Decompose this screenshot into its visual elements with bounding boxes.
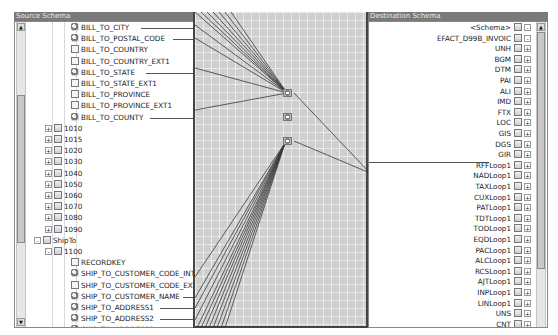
- destination-tree-item[interactable]: TODLoop1+: [474, 223, 533, 234]
- expand-plus-icon[interactable]: +: [524, 141, 531, 148]
- destination-tree-item[interactable]: RCSLoop1+: [475, 266, 533, 277]
- source-tree-item[interactable]: SHIP_TO_CUSTOMER_CODE_INT: [71, 268, 194, 279]
- source-tree-item[interactable]: +1090: [45, 224, 82, 235]
- expand-plus-icon[interactable]: +: [524, 66, 531, 73]
- destination-schema-tree[interactable]: ▲ <Schema>-EFACT_D99B_INVOIC-UNH+BGM+DTM…: [368, 21, 548, 328]
- expand-plus-icon[interactable]: +: [524, 278, 531, 285]
- expand-plus-icon[interactable]: +: [524, 183, 531, 190]
- expand-plus-icon[interactable]: +: [45, 125, 52, 132]
- destination-tree-item[interactable]: EQDLoop1+: [473, 234, 533, 245]
- destination-tree-item[interactable]: IMD+: [497, 96, 533, 107]
- collapse-minus-icon[interactable]: -: [45, 248, 52, 255]
- expand-plus-icon[interactable]: +: [45, 214, 52, 221]
- source-tree-item[interactable]: -ShipTo: [34, 235, 76, 246]
- destination-tree-item[interactable]: PATLoop1+: [477, 202, 533, 213]
- expand-plus-icon[interactable]: +: [524, 310, 531, 317]
- destination-tree-item[interactable]: CUXLoop1+: [474, 192, 533, 203]
- collapse-minus-icon[interactable]: -: [34, 237, 41, 244]
- expand-plus-icon[interactable]: +: [524, 151, 531, 158]
- expand-plus-icon[interactable]: +: [524, 204, 531, 211]
- expand-plus-icon[interactable]: +: [45, 203, 52, 210]
- expand-plus-icon[interactable]: +: [45, 147, 52, 154]
- expand-plus-icon[interactable]: +: [524, 194, 531, 201]
- source-tree-item[interactable]: BILL_TO_PROVINCE: [71, 89, 150, 100]
- source-tree-item[interactable]: BILL_TO_STATE_EXT1: [71, 78, 157, 89]
- destination-tree-item[interactable]: TDTLoop1+: [475, 213, 533, 224]
- expand-plus-icon[interactable]: +: [45, 136, 52, 143]
- source-tree-item[interactable]: +1010: [45, 123, 82, 134]
- source-tree-item[interactable]: SHIP_TO_CUSTOMER_NAME: [71, 291, 180, 302]
- destination-tree-item[interactable]: UNH+: [495, 43, 533, 54]
- destination-tree-item[interactable]: UNS+: [496, 308, 533, 319]
- source-schema-tree[interactable]: ▲ ▼ BILL_TO_CITYBILL_TO_POSTAL_CODEBILL_…: [14, 21, 194, 328]
- expand-plus-icon[interactable]: +: [524, 215, 531, 222]
- source-tree-item[interactable]: SHIP_TO_CUSTOMER_CODE_EXT: [71, 280, 194, 291]
- expand-plus-icon[interactable]: +: [524, 289, 531, 296]
- destination-tree-item[interactable]: LINLoop1+: [478, 298, 533, 309]
- expand-plus-icon[interactable]: +: [524, 109, 531, 116]
- destination-tree-item[interactable]: <Schema>-: [470, 22, 533, 33]
- functoid-node-icon[interactable]: [283, 113, 292, 121]
- destination-tree-item[interactable]: DTM+: [495, 64, 533, 75]
- source-tree-item[interactable]: +1040: [45, 168, 82, 179]
- destination-tree-item[interactable]: EFACT_D99B_INVOIC-: [437, 33, 533, 44]
- source-tree-item[interactable]: SHIP_TO_ADDRESS1: [71, 302, 154, 313]
- source-tree-item[interactable]: +1080: [45, 212, 82, 223]
- source-tree-item[interactable]: RECORDKEY: [71, 257, 125, 268]
- source-tree-item[interactable]: +1060: [45, 190, 82, 201]
- expand-plus-icon[interactable]: +: [524, 257, 531, 264]
- source-vertical-scrollbar[interactable]: ▲ ▼: [16, 22, 26, 327]
- scroll-up-arrow-icon[interactable]: ▲: [17, 23, 25, 31]
- expand-plus-icon[interactable]: +: [524, 77, 531, 84]
- scroll-down-arrow-icon[interactable]: ▼: [17, 318, 25, 326]
- destination-tree-item[interactable]: FTX+: [498, 107, 533, 118]
- functoid-node-icon[interactable]: [283, 137, 292, 145]
- scrollbar-thumb[interactable]: [537, 32, 545, 269]
- expand-plus-icon[interactable]: +: [524, 162, 531, 169]
- destination-tree-item[interactable]: DGS+: [495, 139, 533, 150]
- expand-plus-icon[interactable]: +: [524, 321, 531, 328]
- destination-tree-item[interactable]: INPLoop1+: [477, 287, 533, 298]
- destination-tree-item[interactable]: PACLoop1+: [476, 245, 534, 256]
- expand-plus-icon[interactable]: +: [524, 98, 531, 105]
- expand-plus-icon[interactable]: +: [524, 172, 531, 179]
- destination-tree-item[interactable]: GIR+: [498, 149, 533, 160]
- expand-plus-icon[interactable]: +: [524, 130, 531, 137]
- expand-plus-icon[interactable]: +: [45, 181, 52, 188]
- source-tree-item[interactable]: +1020: [45, 145, 82, 156]
- expand-plus-icon[interactable]: +: [45, 192, 52, 199]
- destination-tree-item[interactable]: CNT+: [496, 319, 533, 328]
- source-tree-item[interactable]: BILL_TO_COUNTRY: [71, 44, 148, 55]
- collapse-minus-icon[interactable]: -: [524, 35, 531, 42]
- source-tree-item[interactable]: +1050: [45, 179, 82, 190]
- source-tree-item[interactable]: BILL_TO_POSTAL_CODE: [71, 33, 165, 44]
- expand-plus-icon[interactable]: +: [524, 225, 531, 232]
- source-tree-item[interactable]: -1100: [45, 246, 82, 257]
- expand-plus-icon[interactable]: +: [524, 236, 531, 243]
- source-tree-item[interactable]: BILL_TO_STATE: [71, 67, 135, 78]
- source-tree-item[interactable]: BILL_TO_COUNTY: [71, 112, 143, 123]
- expand-plus-icon[interactable]: +: [524, 300, 531, 307]
- scroll-up-arrow-icon[interactable]: ▲: [537, 23, 545, 31]
- expand-plus-icon[interactable]: +: [524, 247, 531, 254]
- destination-tree-item[interactable]: ALI+: [500, 86, 533, 97]
- destination-tree-item[interactable]: TAXLoop1+: [476, 181, 533, 192]
- expand-plus-icon[interactable]: +: [45, 170, 52, 177]
- source-tree-item[interactable]: SHIP_TO_ADDRESS2: [71, 313, 154, 324]
- destination-tree-item[interactable]: AJTLoop1+: [478, 276, 533, 287]
- source-tree-item[interactable]: BILL_TO_COUNTRY_EXT1: [71, 56, 170, 67]
- source-tree-item[interactable]: +1015: [45, 134, 82, 145]
- destination-tree-item[interactable]: ALCLoop1+: [475, 255, 533, 266]
- source-tree-item[interactable]: SHIP_TO_ADDRESS3: [71, 324, 154, 328]
- source-tree-item[interactable]: BILL_TO_PROVINCE_EXT1: [71, 100, 172, 111]
- source-tree-item[interactable]: +1070: [45, 201, 82, 212]
- functoid-node-icon[interactable]: [283, 89, 292, 97]
- expand-plus-icon[interactable]: +: [524, 268, 531, 275]
- expand-plus-icon[interactable]: +: [45, 158, 52, 165]
- destination-tree-item[interactable]: LOC+: [497, 117, 533, 128]
- collapse-minus-icon[interactable]: -: [524, 24, 531, 31]
- expand-plus-icon[interactable]: +: [524, 88, 531, 95]
- source-tree-item[interactable]: BILL_TO_CITY: [71, 22, 129, 33]
- source-tree-item[interactable]: +1030: [45, 156, 82, 167]
- expand-plus-icon[interactable]: +: [524, 56, 531, 63]
